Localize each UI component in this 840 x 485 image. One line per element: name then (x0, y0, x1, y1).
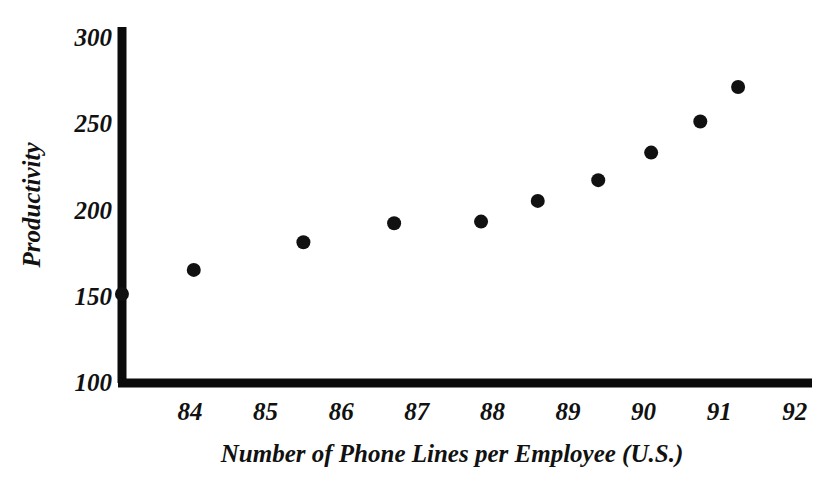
y-tick-label: 100 (75, 369, 113, 396)
axes-group (118, 27, 812, 383)
y-axis-tick-labels: 100150200250300 (74, 24, 113, 396)
data-point (296, 235, 310, 249)
x-tick-label: 88 (480, 398, 506, 425)
x-tick-label: 90 (631, 398, 657, 425)
x-tick-label: 85 (253, 398, 278, 425)
x-tick-label: 89 (556, 398, 582, 425)
y-tick-label: 200 (74, 197, 113, 224)
data-point (731, 80, 745, 94)
y-tick-label: 300 (74, 24, 113, 51)
x-tick-label: 84 (178, 398, 203, 425)
data-point (644, 146, 658, 160)
x-axis-title: Number of Phone Lines per Employee (U.S.… (220, 440, 683, 468)
y-axis-title: Productivity (18, 142, 45, 269)
x-tick-label: 86 (329, 398, 355, 425)
x-tick-label: 87 (404, 398, 431, 425)
data-points-group (115, 80, 745, 301)
x-tick-label: 91 (707, 398, 732, 425)
data-point (474, 215, 488, 229)
data-point (591, 173, 605, 187)
data-point (187, 263, 201, 277)
data-point (693, 115, 707, 129)
x-axis-tick-labels: 848586878889909192 (178, 398, 808, 425)
data-point (387, 216, 401, 230)
scatter-plot-figure: 100150200250300 848586878889909192 Produ… (0, 0, 840, 485)
y-tick-label: 150 (75, 283, 113, 310)
y-tick-label: 250 (74, 110, 113, 137)
data-point (531, 194, 545, 208)
x-tick-label: 92 (782, 398, 807, 425)
chart-canvas: 100150200250300 848586878889909192 Produ… (0, 0, 840, 485)
data-point (115, 287, 129, 301)
